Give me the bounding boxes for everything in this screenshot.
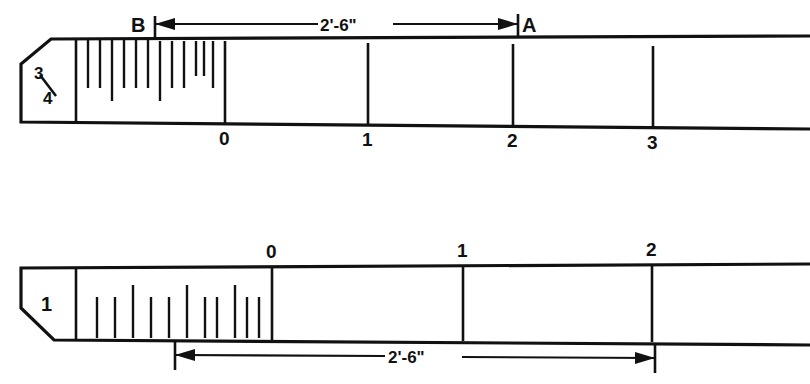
bottom-dimension-line-right (462, 357, 655, 358)
top-dimension-label: 2'-6" (320, 16, 357, 35)
top-scale-number-3: 3 (647, 132, 658, 153)
diagram-canvas: 3 4 0 1 2 3 2'-6" B A (0, 0, 810, 384)
bottom-scale-group: 1 0 1 2 (21, 239, 810, 345)
bottom-scale-subdivision-ticks (97, 285, 259, 338)
bottom-scale-number-0: 0 (266, 241, 277, 262)
bottom-scale-body-outline (21, 264, 810, 345)
top-scale-group: 3 4 0 1 2 3 (21, 36, 810, 153)
top-scale-body-outline (21, 36, 810, 129)
bottom-dimension-label: 2'-6" (388, 348, 425, 367)
top-scale-number-0: 0 (219, 128, 230, 149)
top-scale-number-2: 2 (507, 130, 518, 151)
arrow-right-icon (498, 18, 518, 30)
arrow-left-icon (175, 349, 195, 361)
point-b-label: B (131, 14, 145, 36)
top-scale-number-1: 1 (362, 129, 373, 150)
arrow-right-icon (635, 352, 655, 364)
top-scale-id-numerator: 3 (34, 64, 43, 83)
architect-scale-diagram: 3 4 0 1 2 3 2'-6" B A (0, 0, 810, 384)
bottom-scale-id-label: 1 (41, 293, 52, 315)
bottom-scale-number-2: 2 (646, 239, 657, 260)
arrow-left-icon (155, 18, 175, 30)
bottom-scale-number-1: 1 (457, 240, 468, 261)
top-scale-id-denominator: 4 (43, 89, 53, 108)
bottom-dimension-line-left (175, 355, 385, 356)
top-scale-subdivision-ticks (88, 40, 213, 101)
point-a-label: A (522, 14, 536, 36)
top-scale-id-fraction: 3 4 (34, 64, 56, 108)
